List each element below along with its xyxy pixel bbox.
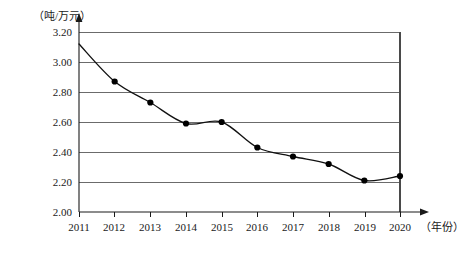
y-tick-label-2-00: 2.00 [53,206,73,218]
y-tick-label-2-80: 2.80 [53,86,73,98]
data-point-2019 [361,177,367,183]
y-tick-label-2-60: 2.60 [53,116,73,128]
data-point-2014 [183,120,189,126]
x-tick-label-2019: 2019 [354,221,377,233]
x-tick-label-2017: 2017 [282,221,305,233]
x-axis-arrow-icon [420,209,429,216]
x-tick-label-2013: 2013 [139,221,162,233]
data-point-2013 [147,99,153,105]
x-tick-label-2016: 2016 [246,221,269,233]
y-tick-label-3-00: 3.00 [53,56,73,68]
data-point-2015 [219,119,225,125]
data-series-markers [112,78,404,183]
y-tick-label-2-40: 2.40 [53,146,73,158]
chart-canvas: （吨/万元） 3.20 3.00 2.80 2.60 2.40 2.20 2.0… [0,0,465,253]
data-point-2017 [290,153,296,159]
y-tick-label-2-20: 2.20 [53,176,73,188]
x-tick-label-2015: 2015 [211,221,234,233]
data-point-2012 [112,78,118,84]
x-tick-label-2018: 2018 [318,221,341,233]
data-point-2020 [397,173,403,179]
data-series-line [79,44,400,181]
x-tick-label-2011: 2011 [68,221,90,233]
data-point-2016 [254,144,260,150]
x-tick-label-2012: 2012 [103,221,125,233]
data-point-2018 [326,161,332,167]
y-axis-unit-label: （吨/万元） [33,10,91,22]
line-chart-figure: （吨/万元） 3.20 3.00 2.80 2.60 2.40 2.20 2.0… [0,0,465,253]
x-tick-label-2014: 2014 [175,221,198,233]
x-tick-label-2020: 2020 [389,221,412,233]
y-tick-label-3-20: 3.20 [53,26,73,38]
x-axis-unit-label: （年份） [420,220,464,233]
